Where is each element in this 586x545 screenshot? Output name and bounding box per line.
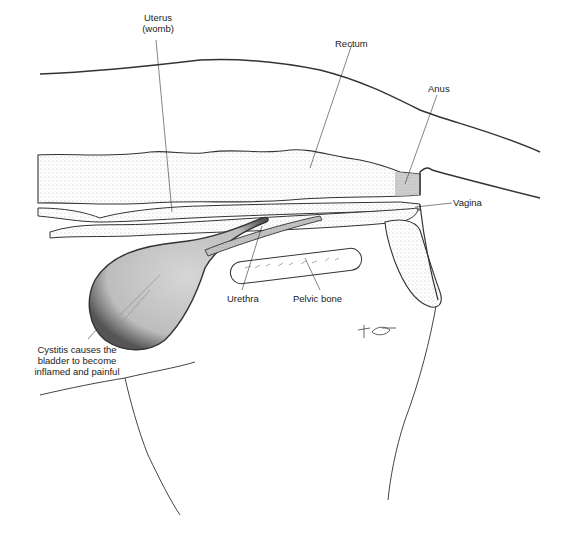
front-leg-outline xyxy=(125,378,180,515)
rectum xyxy=(38,150,420,204)
label-rectum: Rectum xyxy=(335,38,368,49)
cystitis-leader xyxy=(88,328,98,339)
label-uterus: Uterus (womb) xyxy=(136,12,180,34)
label-uterus-line2: (womb) xyxy=(136,23,180,34)
label-cystitis-line2: bladder to become xyxy=(22,355,132,366)
label-cystitis-line1: Cystitis causes the xyxy=(22,344,132,355)
label-cystitis-line3: inflamed and painful xyxy=(22,366,132,377)
label-pelvic-bone: Pelvic bone xyxy=(293,293,342,304)
rectum-leader xyxy=(310,44,352,168)
label-vagina: Vagina xyxy=(453,197,482,208)
vulva xyxy=(385,220,441,307)
artist-signature xyxy=(358,325,396,338)
hind-leg-outline xyxy=(388,306,436,500)
label-cystitis: Cystitis causes the bladder to become in… xyxy=(22,344,132,377)
label-uterus-line1: Uterus xyxy=(136,12,180,23)
tail-outline xyxy=(420,168,540,198)
anus xyxy=(395,172,420,196)
label-anus: Anus xyxy=(428,83,450,94)
anatomy-illustration xyxy=(0,0,586,545)
label-urethra: Urethra xyxy=(227,293,259,304)
back-outline xyxy=(40,59,540,152)
